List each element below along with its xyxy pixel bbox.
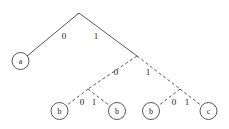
edge-label-lbl-root-right: 1	[94, 31, 99, 41]
tree-edge-e-root-j1	[79, 13, 137, 56]
edge-label-lbl-j3-left: 0	[172, 97, 177, 107]
tree-edge-e-root-a	[27, 13, 79, 56]
node-label-n-b1: b	[58, 107, 62, 116]
node-label-n-a: a	[19, 57, 23, 66]
edges-group	[27, 13, 202, 106]
tree-node-n-a[interactable]: a	[12, 53, 29, 70]
tree-edge-e-j2-b1	[66, 89, 88, 106]
tree-node-n-c[interactable]: c	[200, 103, 217, 120]
nodes-group: abbbc	[12, 53, 217, 120]
edge-label-lbl-root-left: 0	[62, 31, 67, 41]
edge-label-lbl-j2-right: 1	[92, 97, 97, 107]
tree-edge-e-j3-c	[180, 89, 202, 106]
node-label-n-c: c	[207, 107, 211, 116]
edge-labels-group: 01010101	[62, 31, 190, 107]
tree-node-n-b3[interactable]: b	[143, 103, 160, 120]
tree-edge-e-j3-b3	[158, 89, 180, 106]
node-label-n-b3: b	[149, 107, 153, 116]
edge-label-lbl-j2-left: 0	[80, 97, 85, 107]
edge-label-lbl-j1-right: 1	[146, 67, 151, 77]
tree-node-n-b2[interactable]: b	[109, 103, 126, 120]
edge-label-lbl-j1-left: 0	[114, 67, 119, 77]
tree-canvas: 01010101 abbbc	[0, 0, 229, 129]
tree-edge-e-j1-j3	[137, 56, 180, 89]
tree-node-n-b1[interactable]: b	[51, 103, 68, 120]
node-label-n-b2: b	[115, 107, 119, 116]
tree-edge-e-j1-j2	[88, 56, 137, 89]
decision-tree-diagram: 01010101 abbbc	[0, 0, 229, 129]
edge-label-lbl-j3-right: 1	[185, 97, 190, 107]
